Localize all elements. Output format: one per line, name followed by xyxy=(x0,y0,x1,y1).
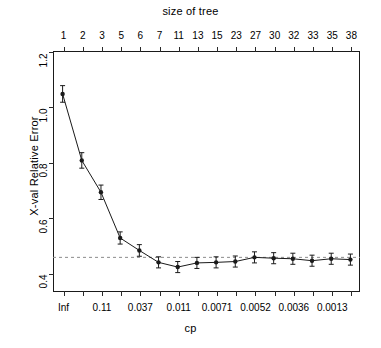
top-axis-tick-label: 7 xyxy=(157,30,163,41)
top-axis-tick-label: 11 xyxy=(174,30,184,41)
x-axis-tick xyxy=(217,291,218,296)
top-axis-tick xyxy=(332,47,333,52)
x-axis-tick xyxy=(255,291,256,296)
x-axis-tick xyxy=(179,291,180,296)
y-axis-tick xyxy=(49,218,54,219)
top-axis-tick-label: 15 xyxy=(212,30,223,41)
x-axis-title: cp xyxy=(0,322,381,334)
x-axis-tick xyxy=(313,291,314,296)
top-axis-tick-label: 38 xyxy=(346,30,357,41)
top-axis-tick-label: 1 xyxy=(61,30,67,41)
x-axis-tick-label: 0.011 xyxy=(167,302,191,313)
top-axis-tick xyxy=(121,47,122,52)
plot-area: 12356711131523273032333538Inf0.110.0370.… xyxy=(53,51,360,292)
top-axis-tick-label: 6 xyxy=(138,30,144,41)
top-axis-tick xyxy=(217,47,218,52)
x-axis-tick xyxy=(140,291,141,296)
top-axis-tick xyxy=(236,47,237,52)
x-axis-tick-label: 0.11 xyxy=(93,302,112,313)
x-axis-tick xyxy=(275,291,276,296)
x-axis-tick-label: 0.0036 xyxy=(279,302,310,313)
top-axis-tick xyxy=(255,47,256,52)
x-axis-tick xyxy=(332,291,333,296)
x-axis-tick xyxy=(64,291,65,296)
top-axis-tick xyxy=(179,47,180,52)
x-axis-tick-label: Inf xyxy=(58,302,69,313)
x-axis-tick xyxy=(160,291,161,296)
x-axis-tick-label: 0.0071 xyxy=(202,302,233,313)
top-axis-tick-label: 13 xyxy=(192,30,203,41)
y-axis-tick xyxy=(49,163,54,164)
top-axis-tick-label: 30 xyxy=(269,30,280,41)
x-axis-tick-label: 0.037 xyxy=(128,302,153,313)
top-axis-tick-label: 5 xyxy=(118,30,124,41)
top-axis-tick xyxy=(351,47,352,52)
top-axis-tick-label: 3 xyxy=(99,30,105,41)
top-axis-tick xyxy=(294,47,295,52)
top-axis-tick xyxy=(140,47,141,52)
top-axis-title: size of tree xyxy=(0,5,381,17)
x-axis-tick-label: 0.0013 xyxy=(317,302,348,313)
top-axis-tick-label: 23 xyxy=(231,30,242,41)
y-axis-tick xyxy=(49,107,54,108)
top-axis-tick-label: 2 xyxy=(80,30,86,41)
x-axis-tick xyxy=(83,291,84,296)
top-axis-tick xyxy=(275,47,276,52)
x-axis-tick xyxy=(294,291,295,296)
top-axis-tick xyxy=(64,47,65,52)
x-axis-tick xyxy=(121,291,122,296)
x-axis-tick-label: 0.0052 xyxy=(240,302,271,313)
top-axis-tick-label: 35 xyxy=(327,30,338,41)
top-axis-tick xyxy=(102,47,103,52)
x-axis-tick xyxy=(351,291,352,296)
x-axis-tick xyxy=(198,291,199,296)
y-axis-tick xyxy=(49,274,54,275)
top-axis-tick-label: 27 xyxy=(250,30,261,41)
top-axis-tick xyxy=(83,47,84,52)
top-axis-tick xyxy=(160,47,161,52)
chart-root: size of tree cp X-val Relative Error 123… xyxy=(0,0,381,348)
top-axis-tick-label: 33 xyxy=(307,30,318,41)
x-axis-tick xyxy=(236,291,237,296)
top-axis-tick-label: 32 xyxy=(288,30,299,41)
top-axis-tick xyxy=(313,47,314,52)
y-axis-tick xyxy=(49,52,54,53)
top-axis-tick xyxy=(198,47,199,52)
x-axis-tick xyxy=(102,291,103,296)
